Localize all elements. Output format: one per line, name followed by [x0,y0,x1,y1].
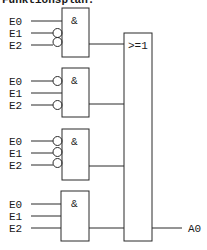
inversion-bubble-g3-e2 [53,159,62,168]
or-gate-box [124,33,152,241]
g4-input-label-e1: E1 [9,211,23,223]
g4-input-label-e2: E2 [9,223,22,235]
g3-input-label-e0: E0 [9,136,22,148]
g4-input-label-e0: E0 [9,199,22,211]
g3-input-label-e2: E2 [9,160,22,172]
g3-input-label-e1: E1 [9,148,23,160]
inversion-bubble-g2-e0 [53,77,62,86]
inversion-bubble-g1-e2 [53,38,62,47]
output-label-a0: A0 [188,223,201,235]
g2-input-label-e2: E2 [9,100,22,112]
inversion-bubble-g2-e2 [53,101,62,110]
and-gate-1-symbol: & [71,15,78,27]
and-gate-3-symbol: & [71,136,78,148]
inversion-bubble-g1-e1 [53,29,62,38]
logic-diagram: Funktionsplan: [0,0,207,250]
g1-input-label-e1: E1 [9,28,23,40]
g2-input-label-e1: E1 [9,88,23,100]
and-gate-2-symbol: & [71,75,78,87]
and-gate-4-symbol: & [71,198,78,210]
g1-input-label-e2: E2 [9,40,22,52]
g2-input-label-e0: E0 [9,76,22,88]
inversion-bubble-g3-e0 [53,137,62,146]
g1-input-label-e0: E0 [9,16,22,28]
diagram-title: Funktionsplan: [2,0,94,6]
or-gate-symbol: >=1 [128,40,148,52]
inversion-bubble-g3-e1 [53,148,62,157]
